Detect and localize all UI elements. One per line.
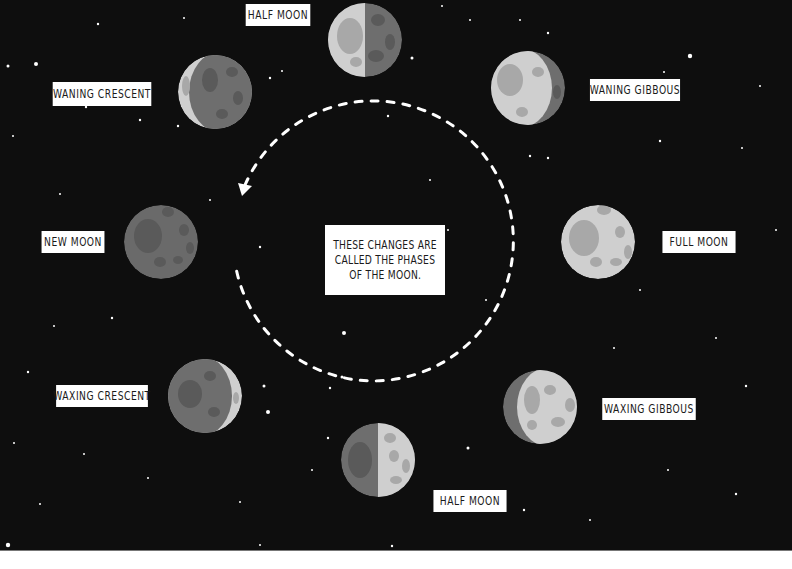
- center-caption: THESE CHANGES ARE CALLED THE PHASES OF T…: [325, 225, 445, 295]
- label-waning-crescent: WANING CRESCENT: [53, 82, 152, 106]
- space-background: HALF MOON WANING GIBBOUS FULL MOON WAXIN…: [0, 0, 792, 550]
- label-half-moon-top: HALF MOON: [246, 4, 311, 26]
- orbit-arrowhead: [238, 183, 252, 196]
- moon-half-top: [328, 0, 402, 80]
- label-full-moon: FULL MOON: [662, 231, 735, 253]
- label-waxing-crescent: WAXING CRESCENT: [56, 385, 148, 407]
- center-caption-line-3: OF THE MOON.: [349, 268, 421, 283]
- moon-waning-gibbous: [488, 48, 565, 128]
- label-new-moon: NEW MOON: [42, 231, 105, 253]
- center-caption-line-2: CALLED THE PHASES: [335, 253, 435, 268]
- moon-waning-crescent: [178, 51, 255, 133]
- page-bottom-margin: [0, 550, 792, 569]
- center-caption-line-1: THESE CHANGES ARE: [333, 238, 437, 253]
- label-waning-gibbous: WANING GIBBOUS: [590, 79, 680, 101]
- moon-full: [561, 205, 635, 279]
- moon-new: [124, 205, 198, 279]
- moon-waxing-gibbous: [503, 367, 581, 447]
- label-half-moon-bottom: HALF MOON: [433, 490, 506, 512]
- label-waxing-gibbous: WAXING GIBBOUS: [602, 398, 696, 420]
- moon-half-bottom: [341, 420, 418, 500]
- moon-waxing-crescent: [166, 355, 242, 437]
